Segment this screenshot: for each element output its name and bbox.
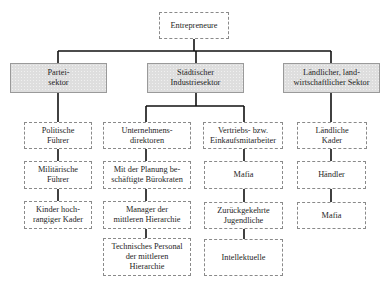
node-label: Mafia — [234, 170, 254, 180]
node-sector-laendlich: Ländlicher, land- wirtschaftlicher Sekto… — [283, 63, 380, 93]
node-label: Ländlicher, land- wirtschaftlicher Sekto… — [294, 68, 370, 88]
node-politische-fuehrer: Politische Führer — [24, 122, 92, 149]
node-label: Entrepreneure — [171, 21, 218, 31]
node-laendliche-kader: Ländliche Kader — [297, 122, 367, 149]
node-technisches-personal: Technisches Personal der mittleren Hiera… — [103, 238, 191, 276]
node-mafia-laendlich: Mafia — [297, 202, 366, 229]
node-label: Unternehmens- direktoren — [121, 126, 172, 146]
node-manager-mittlere-hierarchie: Manager der mittleren Hierarchie — [103, 201, 191, 229]
node-militaerische-fuehrer: Militärische Führer — [24, 161, 92, 189]
node-entrepreneure: Entrepreneure — [159, 12, 229, 39]
node-zurueckgekehrte-jugendliche: Zurückgekehrte Jugendliche — [204, 202, 283, 229]
node-label: Mit der Planung be- schäftigte Bürokrate… — [111, 165, 183, 185]
node-label: Militärische Führer — [38, 165, 78, 185]
node-sector-staedtisch: Städtischer Industriesektor — [147, 63, 244, 93]
node-vertriebs-einkaufsmitarbeiter: Vertriebs- bzw. Einkaufsmitarbeiter — [203, 122, 283, 149]
node-intellektuelle: Intellektuelle — [204, 239, 283, 276]
node-unternehmensdirektoren: Unternehmens- direktoren — [103, 122, 191, 149]
node-label: Zurückgekehrte Jugendliche — [217, 206, 270, 226]
node-label: Kinder hoch- rangiger Kader — [33, 205, 83, 225]
node-haendler: Händler — [297, 161, 366, 189]
node-sector-partei: Partei- sektor — [10, 63, 107, 93]
node-label: Ländliche Kader — [315, 126, 348, 146]
node-label: Politische Führer — [42, 126, 75, 146]
node-label: Manager der mittleren Hierarchie — [113, 205, 180, 225]
node-kinder-kader: Kinder hoch- rangiger Kader — [24, 201, 92, 229]
node-label: Städtischer Industriesektor — [171, 68, 221, 88]
node-mafia-staedtisch: Mafia — [204, 161, 283, 189]
node-planung-buerokraten: Mit der Planung be- schäftigte Bürokrate… — [103, 161, 191, 189]
node-label: Mafia — [322, 211, 342, 221]
node-label: Partei- sektor — [47, 68, 69, 88]
node-label: Intellektuelle — [222, 253, 266, 263]
node-label: Händler — [318, 170, 345, 180]
node-label: Vertriebs- bzw. Einkaufsmitarbeiter — [210, 126, 276, 146]
node-label: Technisches Personal der mittleren Hiera… — [111, 242, 182, 272]
